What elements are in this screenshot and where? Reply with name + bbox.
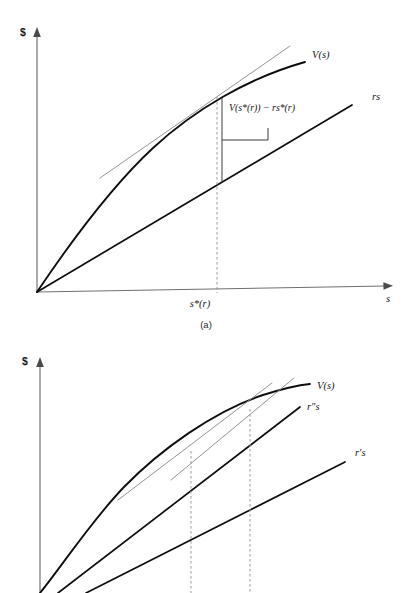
figure-b-y-axis-label: $ xyxy=(22,355,28,367)
y-axis-arrow-icon-b xyxy=(36,357,44,367)
figure-a: $ s V(s) rs s*(r) V(s*(r)) − rs*(r) (a) xyxy=(20,26,393,330)
figure-b-tangent-low xyxy=(118,383,272,500)
figure-b: $ V(s) r″s r′s xyxy=(22,355,365,593)
figure-b-y-axis xyxy=(36,357,44,593)
figure-a-value-curve-label: V(s) xyxy=(312,49,330,61)
figure-a-y-axis xyxy=(33,27,41,292)
figure-b-cost-line-high-label: r″s xyxy=(307,401,320,412)
figure-b-value-curve-label: V(s) xyxy=(317,380,335,392)
figure-b-cost-line-high xyxy=(58,407,300,593)
figure-b-tangent-high xyxy=(171,378,294,480)
figure-canvas: $ s V(s) rs s*(r) V(s*(r)) − rs*(r) (a) xyxy=(0,0,412,593)
figure-a-caption: (a) xyxy=(200,319,212,330)
figure-a-x-axis xyxy=(37,282,393,292)
figure-root: $ s V(s) rs s*(r) V(s*(r)) − rs*(r) (a) xyxy=(0,0,412,593)
figure-a-value-curve xyxy=(37,62,305,292)
figure-a-cost-line-label: rs xyxy=(372,91,380,102)
figure-a-x-axis-label: s xyxy=(386,293,390,304)
figure-b-cost-line-low xyxy=(86,462,345,593)
y-axis-arrow-icon xyxy=(33,27,41,37)
x-axis-arrow-icon xyxy=(383,282,393,290)
figure-b-cost-line-low-label: r′s xyxy=(355,447,365,458)
figure-b-value-curve xyxy=(40,384,310,593)
figure-a-x-tick-label: s*(r) xyxy=(190,298,211,310)
figure-a-cost-line xyxy=(37,105,352,292)
figure-a-surplus-annotation: V(s*(r)) − rs*(r) xyxy=(229,102,295,114)
figure-a-y-axis-label: $ xyxy=(20,26,26,38)
